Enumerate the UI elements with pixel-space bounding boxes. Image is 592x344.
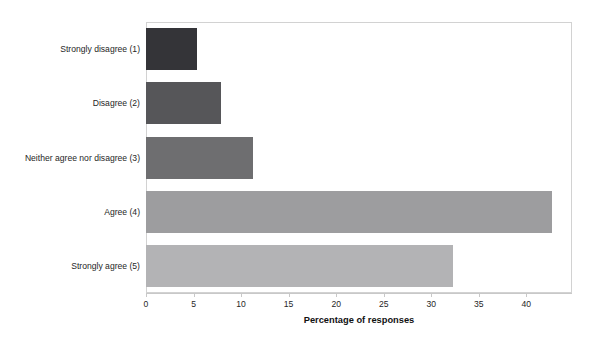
category-label-5: Strongly agree (5) xyxy=(0,261,140,271)
bar-5 xyxy=(146,245,453,287)
x-axis-title: Percentage of responses xyxy=(146,315,572,325)
x-axis-line xyxy=(146,293,572,294)
x-tick-mark-3 xyxy=(289,293,290,297)
chart-screenshot: Strongly disagree (1)Disagree (2)Neither… xyxy=(0,0,592,344)
category-label-4: Agree (4) xyxy=(0,207,140,217)
x-tick-label-0: 0 xyxy=(126,299,166,309)
category-axis-labels: Strongly disagree (1)Disagree (2)Neither… xyxy=(0,22,140,293)
x-tick-mark-8 xyxy=(526,293,527,297)
x-tick-mark-6 xyxy=(431,293,432,297)
x-tick-label-2: 10 xyxy=(221,299,261,309)
category-label-3: Neither agree nor disagree (3) xyxy=(0,153,140,163)
x-tick-mark-2 xyxy=(241,293,242,297)
x-tick-label-7: 35 xyxy=(459,299,499,309)
bar-4 xyxy=(146,191,552,233)
x-tick-label-3: 15 xyxy=(269,299,309,309)
x-tick-label-5: 25 xyxy=(364,299,404,309)
bar-2 xyxy=(146,82,221,124)
x-tick-mark-1 xyxy=(194,293,195,297)
x-tick-label-6: 30 xyxy=(411,299,451,309)
x-tick-mark-7 xyxy=(479,293,480,297)
x-tick-mark-4 xyxy=(336,293,337,297)
x-tick-label-4: 20 xyxy=(316,299,356,309)
x-tick-mark-0 xyxy=(146,293,147,297)
category-label-1: Strongly disagree (1) xyxy=(0,44,140,54)
chart-title xyxy=(0,0,592,4)
category-label-2: Disagree (2) xyxy=(0,98,140,108)
bar-1 xyxy=(146,28,197,70)
x-tick-mark-5 xyxy=(384,293,385,297)
bar-3 xyxy=(146,137,253,179)
x-tick-label-8: 40 xyxy=(506,299,546,309)
bars-layer xyxy=(146,22,572,293)
x-tick-label-1: 5 xyxy=(174,299,214,309)
